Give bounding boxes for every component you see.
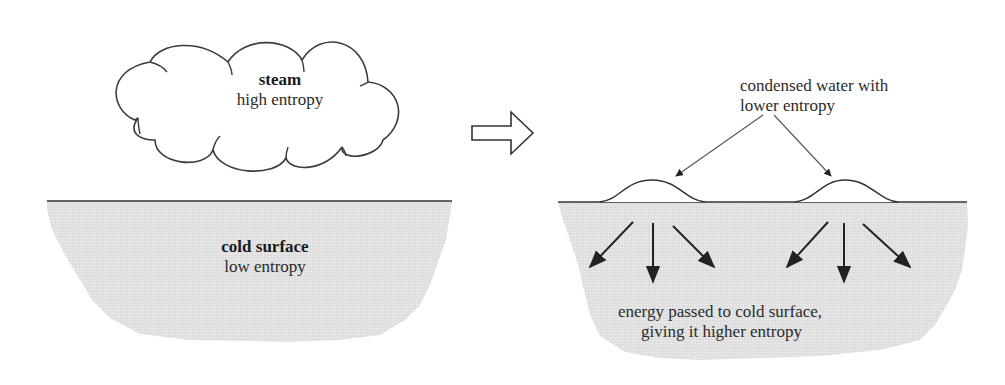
- water-droplet: [795, 180, 898, 202]
- cold-surface-label: cold surface low entropy: [180, 237, 350, 277]
- water-droplet: [600, 180, 705, 202]
- hollow-right-arrow-icon: [472, 112, 533, 154]
- steam-title: steam: [200, 70, 360, 90]
- energy-caption-line-2: giving it higher entropy: [618, 322, 822, 342]
- cold-surface-subtitle: low entropy: [180, 257, 350, 277]
- steam-subtitle: high entropy: [200, 90, 360, 110]
- annotation-pointer-arrows: [676, 115, 831, 176]
- steam-label: steam high entropy: [200, 70, 360, 110]
- annotation-line-1: condensed water with: [740, 76, 888, 96]
- energy-caption: energy passed to cold surface, giving it…: [618, 302, 822, 342]
- annotation-line-2: lower entropy: [740, 96, 888, 116]
- diagram-canvas: [0, 0, 1005, 385]
- energy-caption-line-1: energy passed to cold surface,: [618, 302, 822, 322]
- condensed-water-annotation: condensed water with lower entropy: [740, 76, 888, 116]
- cold-surface-title: cold surface: [180, 237, 350, 257]
